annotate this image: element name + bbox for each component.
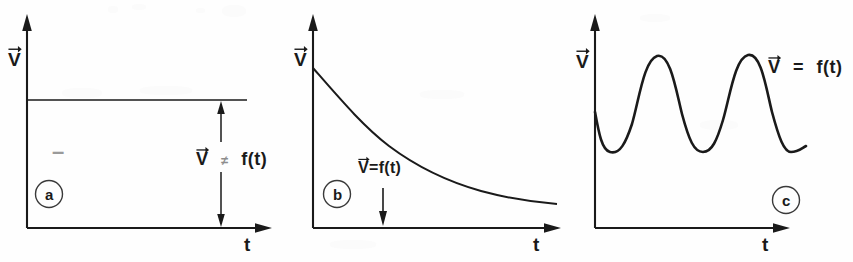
x-axis-label-b: t: [533, 235, 539, 254]
vector-arrow-icon: [768, 53, 782, 61]
y-axis-b: [308, 14, 318, 228]
panel-c-graphic: [570, 0, 853, 262]
y-axis-label-b: V: [294, 50, 307, 69]
annotation-a: V ≠ f(t): [196, 150, 267, 168]
x-axis-label-a: t: [244, 235, 250, 254]
panel-a-graphic: [0, 0, 285, 262]
panel-b: V V =f(t) b t: [285, 0, 575, 262]
y-axis-label-c: V: [576, 52, 589, 71]
y-axis-a: [22, 14, 32, 228]
vector-arrow-icon: [196, 145, 210, 153]
vector-arrow-icon: [8, 44, 22, 53]
figure-sheet: V – V ≠ f(t) a t: [0, 0, 853, 262]
panel-tag-a: a: [45, 187, 53, 202]
y-axis-c: [590, 14, 600, 228]
x-axis-c: [595, 223, 790, 233]
label-pointer-arrow-b: [379, 188, 387, 226]
annotation-function-b: f(t): [379, 159, 402, 176]
panel-c: V V = f(t) c t: [570, 0, 853, 262]
vector-arrow-icon: [358, 155, 370, 162]
annotation-function-c: f(t): [817, 57, 843, 77]
annotation-relation-b: =: [369, 159, 379, 176]
x-axis-a: [27, 223, 272, 233]
panel-tag-c: c: [782, 193, 790, 208]
panel-b-graphic: [285, 0, 575, 262]
x-axis-label-c: t: [762, 235, 768, 254]
annotation-function-a: f(t): [241, 149, 267, 169]
annotation-relation-a: ≠: [221, 153, 229, 168]
panel-tag-b: b: [333, 187, 342, 202]
vector-arrow-icon: [576, 46, 590, 55]
x-axis-b: [313, 223, 561, 233]
annotation-b: V =f(t): [358, 160, 401, 176]
decay-curve: [313, 68, 557, 204]
annotation-relation-c: =: [793, 57, 804, 77]
vector-arrow-icon: [294, 44, 308, 53]
stray-dash-mark-a: –: [52, 141, 64, 163]
y-axis-label-a: V: [8, 50, 21, 69]
annotation-c: V = f(t): [768, 58, 843, 76]
panel-a: V – V ≠ f(t) a t: [0, 0, 285, 262]
